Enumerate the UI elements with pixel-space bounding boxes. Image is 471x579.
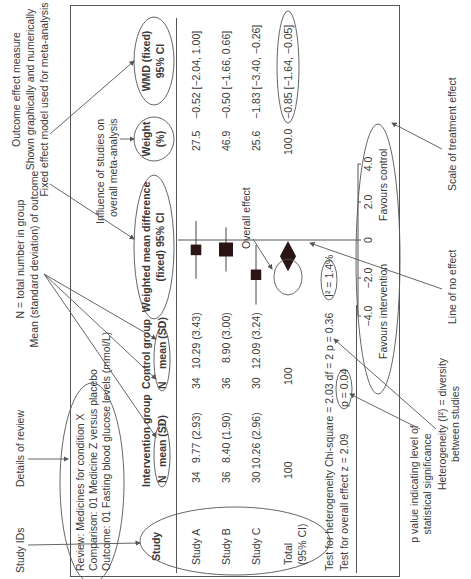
i2-ellipse <box>321 260 337 300</box>
n-arrow-ctl <box>44 274 156 379</box>
weight-header-ellipse <box>134 117 174 161</box>
forest-plot-figure: Study IDs Details of review N = total nu… <box>0 0 471 579</box>
overall-diamond <box>280 241 296 271</box>
study-marker <box>191 245 202 256</box>
scale-arrow <box>392 123 442 149</box>
outcome-arrow-wmd <box>50 184 134 239</box>
mean-arrow-ctl <box>44 274 156 339</box>
study-marker <box>251 270 261 280</box>
study-ids-ellipse <box>140 507 330 575</box>
mean-arrow-int <box>44 274 156 437</box>
plot-overlay <box>0 0 471 579</box>
no-effect-arrow <box>310 243 442 289</box>
ctl-nmean-ellipse <box>154 327 170 391</box>
p-value-ellipse <box>336 369 352 409</box>
review-details-ellipse <box>60 383 124 579</box>
axis-scale-ellipse <box>356 124 400 394</box>
study-ids-arrow <box>28 543 140 545</box>
heterogeneity-arrow <box>334 339 436 429</box>
forest-plot-marks <box>178 164 361 316</box>
wmdf-header-ellipse <box>134 17 174 105</box>
overall-wmd-ellipse <box>277 11 299 123</box>
wmd-header-ellipse <box>134 175 174 319</box>
outcome-arrow-wmdf <box>50 61 134 134</box>
study-marker <box>219 243 233 257</box>
p-value-arrow <box>350 394 420 429</box>
int-nmean-ellipse <box>154 423 170 487</box>
annotation-arrows <box>28 61 442 545</box>
